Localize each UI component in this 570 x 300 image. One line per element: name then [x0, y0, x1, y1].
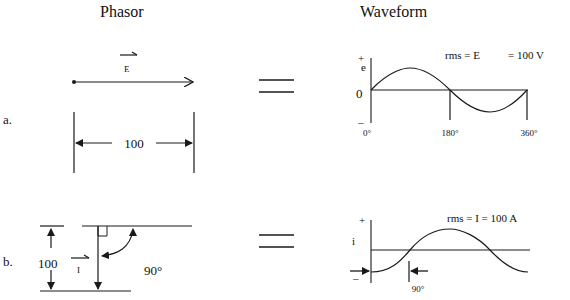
row-b-label: b. — [3, 254, 13, 269]
waveform-a: e + 0 – 0° 180° 360° rms = E = 100 V — [356, 49, 544, 138]
rms-value-e: = 100 V — [508, 49, 544, 61]
zero-label: 0 — [356, 86, 363, 101]
minus-sign-b: – — [352, 272, 359, 284]
row-a-label: a. — [3, 112, 12, 127]
phasor-a: E 100 — [72, 52, 194, 173]
waveform-b: + i – 90° rms = I = 100 A — [350, 212, 530, 294]
plus-sign-b: + — [359, 214, 365, 226]
axis-label-i: i — [352, 235, 355, 247]
phasor-b: 100 I 90° — [38, 226, 192, 291]
phasor-b-magnitude: 100 — [38, 256, 58, 271]
tick-0: 0° — [363, 128, 372, 138]
phasor-a-magnitude: 100 — [124, 136, 144, 151]
phasor-a-name: E — [124, 64, 130, 74]
shift-label: 90° — [412, 284, 425, 294]
plus-sign: + — [358, 52, 364, 64]
rms-text-i: rms = I = 100 A — [447, 212, 517, 224]
minus-sign: – — [357, 116, 364, 128]
waveform-header: Waveform — [360, 3, 428, 20]
tick-180: 180° — [441, 128, 459, 138]
equals-sign-a — [259, 80, 294, 92]
phasor-waveform-diagram: Phasor Waveform a. E 100 e + 0 – — [0, 0, 570, 300]
phasor-b-name: I — [77, 265, 80, 275]
equals-sign-b — [259, 235, 294, 247]
phasor-header: Phasor — [100, 3, 144, 20]
tick-360: 360° — [520, 128, 538, 138]
phasor-b-angle: 90° — [144, 263, 162, 278]
rms-text-e: rms = E — [445, 49, 480, 61]
